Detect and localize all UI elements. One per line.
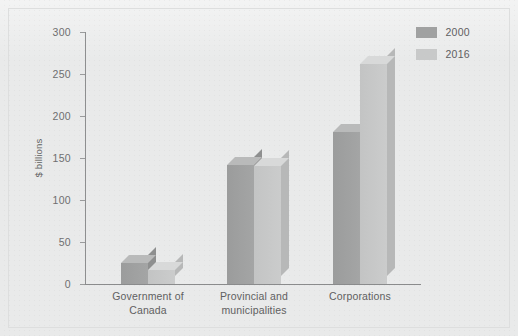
legend-item-2000[interactable]: 2000 bbox=[416, 23, 470, 41]
y-axis-label: $ billions bbox=[33, 139, 44, 178]
y-tick-label-0: 0 bbox=[65, 278, 71, 290]
bar-group-government-of-canada: Government of Canada bbox=[113, 32, 183, 284]
bar-front-face bbox=[148, 270, 175, 284]
y-tick-200: 200 bbox=[80, 116, 85, 117]
y-tick-0: 0 bbox=[80, 284, 85, 285]
bar-group-provincial-and-municipalities: Provincial and municipalities bbox=[219, 32, 289, 284]
legend-label-2016: 2016 bbox=[445, 48, 470, 60]
y-tick-label-50: 50 bbox=[59, 236, 71, 248]
y-tick-label-100: 100 bbox=[53, 194, 71, 206]
y-tick-label-300: 300 bbox=[53, 26, 71, 38]
x-axis-line bbox=[85, 284, 421, 285]
x-category-line-1: Corporations bbox=[285, 290, 435, 304]
legend-swatch-2016 bbox=[416, 49, 437, 60]
bar-side-face bbox=[387, 48, 395, 276]
y-tick-250: 250 bbox=[80, 74, 85, 75]
y-tick-100: 100 bbox=[80, 200, 85, 201]
legend-item-2016[interactable]: 2016 bbox=[416, 45, 470, 63]
bar-2000-provincial-and-municipalities[interactable] bbox=[227, 165, 254, 284]
bar-front-face bbox=[333, 132, 360, 284]
bar-group-corporations: Corporations bbox=[325, 32, 395, 284]
chart-legend: 2000 2016 bbox=[416, 23, 470, 67]
plot-area: $ billions 300 250 200 150 100 50 0 bbox=[85, 32, 415, 284]
legend-label-2000: 2000 bbox=[445, 26, 470, 38]
legend-swatch-2000 bbox=[416, 27, 437, 38]
y-tick-label-200: 200 bbox=[53, 110, 71, 122]
bar-2016-provincial-and-municipalities[interactable] bbox=[254, 166, 281, 284]
bar-front-face bbox=[254, 166, 281, 284]
y-tick-150: 150 bbox=[80, 158, 85, 159]
y-tick-label-150: 150 bbox=[53, 152, 71, 164]
bar-2016-government-of-canada[interactable] bbox=[148, 270, 175, 284]
chart-figure: 2000 2016 $ billions 300 250 200 150 100… bbox=[0, 0, 518, 336]
y-tick-50: 50 bbox=[80, 242, 85, 243]
bar-2000-corporations[interactable] bbox=[333, 132, 360, 284]
bar-front-face bbox=[121, 263, 148, 284]
y-tick-label-250: 250 bbox=[53, 68, 71, 80]
bar-2016-corporations[interactable] bbox=[360, 64, 387, 284]
bar-side-face bbox=[281, 150, 289, 276]
x-category-label-corporations: Corporations bbox=[285, 290, 435, 304]
y-axis-line bbox=[85, 32, 86, 284]
bar-front-face bbox=[360, 64, 387, 284]
bar-2000-government-of-canada[interactable] bbox=[121, 263, 148, 284]
y-tick-300: 300 bbox=[80, 32, 85, 33]
x-category-line-2: municipalities bbox=[179, 304, 329, 318]
bar-front-face bbox=[227, 165, 254, 284]
